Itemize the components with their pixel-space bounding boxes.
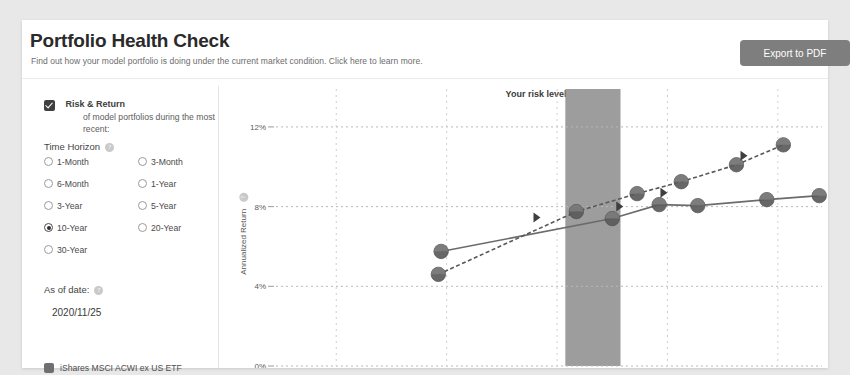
- radio-label: 5-Year: [151, 201, 176, 211]
- radio-label: 20-Year: [151, 223, 181, 233]
- legend-label: iShares MSCI ACWI ex US ETF: [60, 363, 182, 373]
- header: Portfolio Health Check Find out how your…: [22, 20, 828, 78]
- radio-mark-icon: [44, 223, 53, 232]
- question-icon[interactable]: ?: [94, 286, 103, 295]
- radio-label: 30-Year: [57, 245, 87, 255]
- radio-label: 1-Year: [151, 179, 176, 189]
- as-of-date-label-text: As of date:: [44, 284, 89, 295]
- risk-return-description: of model portfolios during the most rece…: [83, 112, 233, 135]
- data-point-highlight: [760, 192, 774, 199]
- export-to-pdf-button[interactable]: Export to PDF: [740, 40, 850, 66]
- radio-20-year[interactable]: 20-Year: [138, 223, 181, 233]
- risk-return-chart: Your risk level Annualized Return ? 0%4%…: [218, 79, 828, 368]
- data-point-highlight: [652, 197, 666, 204]
- radio-30-year[interactable]: 30-Year: [44, 245, 87, 255]
- radio-10-year[interactable]: 10-Year: [44, 223, 87, 233]
- radio-mark-icon: [138, 157, 147, 166]
- question-icon[interactable]: ?: [105, 143, 114, 152]
- y-axis-tick: 4%: [254, 282, 266, 291]
- radio-label: 10-Year: [57, 223, 87, 233]
- radio-5-year[interactable]: 5-Year: [138, 201, 176, 211]
- data-point-highlight: [674, 175, 688, 182]
- legend-item-benchmark[interactable]: iShares MSCI ACWI ex US ETF: [44, 357, 182, 375]
- data-point-highlight: [691, 198, 705, 205]
- as-of-date-label: As of date:?: [44, 284, 103, 295]
- radio-label: 6-Month: [57, 179, 89, 189]
- radio-label: 3-Year: [57, 201, 82, 211]
- risk-return-checkbox-row[interactable]: Risk & Return of model portfolios during…: [44, 99, 216, 117]
- flow-arrow-icon: [660, 188, 667, 198]
- legend-swatch: [44, 363, 54, 373]
- page-subtitle: Find out how your model portfolio is doi…: [31, 56, 423, 66]
- dashboard-card: Portfolio Health Check Find out how your…: [22, 20, 828, 368]
- radio-3-month[interactable]: 3-Month: [138, 157, 183, 167]
- radio-mark-icon: [138, 179, 147, 188]
- risk-level-band: [565, 89, 620, 366]
- radio-1-year[interactable]: 1-Year: [138, 179, 176, 189]
- radio-mark-icon: [138, 201, 147, 210]
- radio-6-month[interactable]: 6-Month: [44, 179, 89, 189]
- radio-1-month[interactable]: 1-Month: [44, 157, 89, 167]
- as-of-date-value[interactable]: 2020/11/25: [52, 307, 101, 318]
- time-horizon-label: Time Horizon?: [44, 141, 114, 152]
- y-axis-tick: 8%: [254, 203, 266, 212]
- radio-label: 1-Month: [57, 157, 89, 167]
- flow-arrow-icon: [533, 213, 540, 223]
- data-point-highlight: [431, 267, 445, 274]
- radio-mark-icon: [44, 201, 53, 210]
- risk-return-checkbox[interactable]: [44, 100, 55, 111]
- controls-panel: Risk & Return of model portfolios during…: [22, 79, 218, 368]
- radio-mark-icon: [44, 179, 53, 188]
- radio-mark-icon: [44, 245, 53, 254]
- radio-mark-icon: [44, 157, 53, 166]
- chart-canvas: 0%4%8%12%: [218, 79, 828, 368]
- radio-label: 3-Month: [151, 157, 183, 167]
- radio-mark-icon: [138, 223, 147, 232]
- data-point-highlight: [812, 188, 826, 195]
- radio-3-year[interactable]: 3-Year: [44, 201, 82, 211]
- data-point-highlight: [630, 186, 644, 193]
- y-axis-tick: 12%: [250, 123, 266, 132]
- time-horizon-label-text: Time Horizon: [44, 141, 100, 152]
- page-title: Portfolio Health Check: [30, 30, 229, 52]
- flow-arrow-icon: [740, 151, 747, 161]
- risk-return-label: Risk & Return: [65, 99, 125, 109]
- y-axis-tick: 0%: [254, 362, 266, 368]
